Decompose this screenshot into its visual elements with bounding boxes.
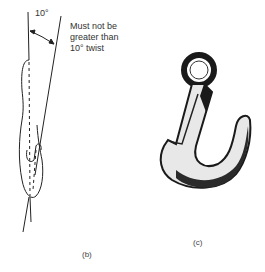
arrowhead-right: [49, 39, 54, 44]
caption-c: (c): [193, 238, 202, 247]
eye-hook-illustration: [161, 55, 251, 188]
twist-note-line-3: 10° twist: [70, 43, 104, 53]
sling-centerline: [29, 62, 30, 196]
angle-label: 10°: [35, 8, 49, 18]
twist-note-line-1: Must not be: [70, 21, 117, 31]
tail-line-left: [23, 197, 29, 232]
tail-line-right: [30, 197, 31, 222]
arrowhead-left: [30, 30, 35, 34]
vertical-reference-line: [28, 12, 29, 60]
hook-eye-inner: [190, 61, 208, 79]
sling-loop-outline: [19, 60, 42, 197]
twist-note-line-2: greater than: [70, 32, 119, 42]
caption-b: (b): [82, 250, 92, 259]
twist-diagram: [19, 12, 61, 232]
diagram-canvas: [0, 0, 265, 272]
